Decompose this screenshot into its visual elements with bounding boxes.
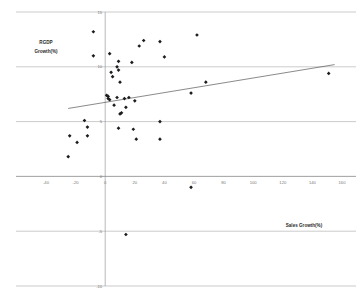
data-point [158, 137, 162, 141]
data-point [142, 39, 146, 43]
x-tick-140: 140 [309, 180, 317, 185]
data-point [123, 97, 127, 101]
trendline-segment [68, 65, 334, 109]
y-axis-tick-labels: -10-5051015 [96, 10, 103, 289]
data-point [112, 103, 116, 107]
data-point [117, 59, 121, 63]
x-tick-120: 120 [279, 180, 287, 185]
y-axis-title-line2: Growth(%) [34, 49, 58, 54]
x-tick--40: -40 [43, 180, 50, 185]
data-point [115, 65, 119, 69]
data-point [133, 99, 137, 103]
data-point [163, 55, 167, 59]
data-point [134, 137, 138, 141]
x-tick-80: 80 [221, 180, 226, 185]
data-point [327, 72, 331, 76]
x-tick-0: 0 [104, 180, 107, 185]
y-tick--10: -10 [96, 284, 103, 289]
x-tick-40: 40 [162, 180, 167, 185]
data-points [66, 30, 330, 236]
y-axis-title-line1: RGDP [39, 40, 52, 45]
data-point [117, 68, 121, 72]
data-point [86, 134, 90, 138]
gridlines [16, 12, 356, 286]
data-point [108, 52, 112, 56]
data-point [158, 40, 162, 44]
y-tick-10: 10 [98, 64, 103, 69]
chart-canvas: -40-20020406080100120140160 -10-5051015 … [0, 0, 360, 299]
data-point [115, 96, 119, 100]
data-point [92, 54, 96, 58]
data-point [86, 125, 90, 129]
data-point [124, 106, 128, 110]
x-tick-160: 160 [339, 180, 347, 185]
trendline [68, 65, 334, 109]
x-tick-100: 100 [250, 180, 258, 185]
y-tick--5: -5 [98, 229, 102, 234]
data-point [124, 233, 128, 237]
data-point [92, 30, 96, 34]
data-point [189, 91, 193, 95]
x-axis-title: Sales Growth(%) [286, 223, 323, 228]
data-point [66, 155, 70, 159]
data-point [111, 75, 115, 79]
y-tick-15: 15 [98, 10, 103, 15]
x-tick-20: 20 [132, 180, 137, 185]
data-point [109, 70, 113, 74]
data-point [189, 186, 193, 190]
x-tick-60: 60 [192, 180, 197, 185]
data-point [130, 61, 134, 65]
data-point [118, 80, 122, 84]
x-tick--20: -20 [73, 180, 80, 185]
data-point [68, 134, 72, 138]
data-point [158, 120, 162, 124]
data-point [117, 126, 121, 130]
axes [16, 12, 356, 286]
data-point [131, 127, 135, 131]
scatter-chart: -40-20020406080100120140160 -10-5051015 … [0, 0, 360, 299]
data-point [204, 80, 208, 84]
data-point [75, 141, 79, 145]
data-point [137, 44, 141, 48]
data-point [195, 33, 199, 37]
x-axis-tick-labels: -40-20020406080100120140160 [43, 180, 346, 185]
